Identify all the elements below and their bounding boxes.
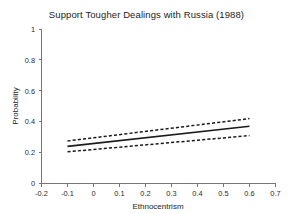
x-axis-tick-labels: -0.2 -0.1 0 0.1 0.2 0.3 0.4 0.5 0.6 0.7: [35, 189, 281, 198]
y-tick-label: 1: [31, 25, 35, 34]
y-tick-label: 0.8: [25, 56, 35, 65]
y-tick-label: 0.6: [25, 87, 35, 96]
chart-figure: Support Tougher Dealings with Russia (19…: [0, 0, 293, 214]
chart-plot-area: 0 0.2 0.4 0.6 0.8 1 -0.2 -0.1 0 0.1 0.2 …: [0, 0, 293, 214]
y-tick-label: 0.4: [25, 117, 35, 126]
y-tick-label: 0: [31, 179, 35, 188]
y-axis-tick-labels: 0 0.2 0.4 0.6 0.8 1: [25, 25, 35, 189]
x-tick-label: -0.2: [35, 189, 48, 198]
x-tick-label: 0.2: [140, 189, 150, 198]
x-axis-title: Ethnocentrism: [132, 202, 183, 211]
x-tick-label: 0.6: [244, 189, 254, 198]
x-tick-label: 0.1: [114, 189, 124, 198]
x-tick-label: 0.4: [192, 189, 202, 198]
x-tick-label: -0.1: [61, 189, 74, 198]
y-tick-label: 0.2: [25, 148, 35, 157]
x-tick-label: 0.3: [166, 189, 176, 198]
x-tick-label: 0.7: [270, 189, 280, 198]
x-tick-label: 0: [91, 189, 95, 198]
x-tick-label: 0.5: [218, 189, 228, 198]
y-axis-title: Probability: [11, 87, 20, 124]
